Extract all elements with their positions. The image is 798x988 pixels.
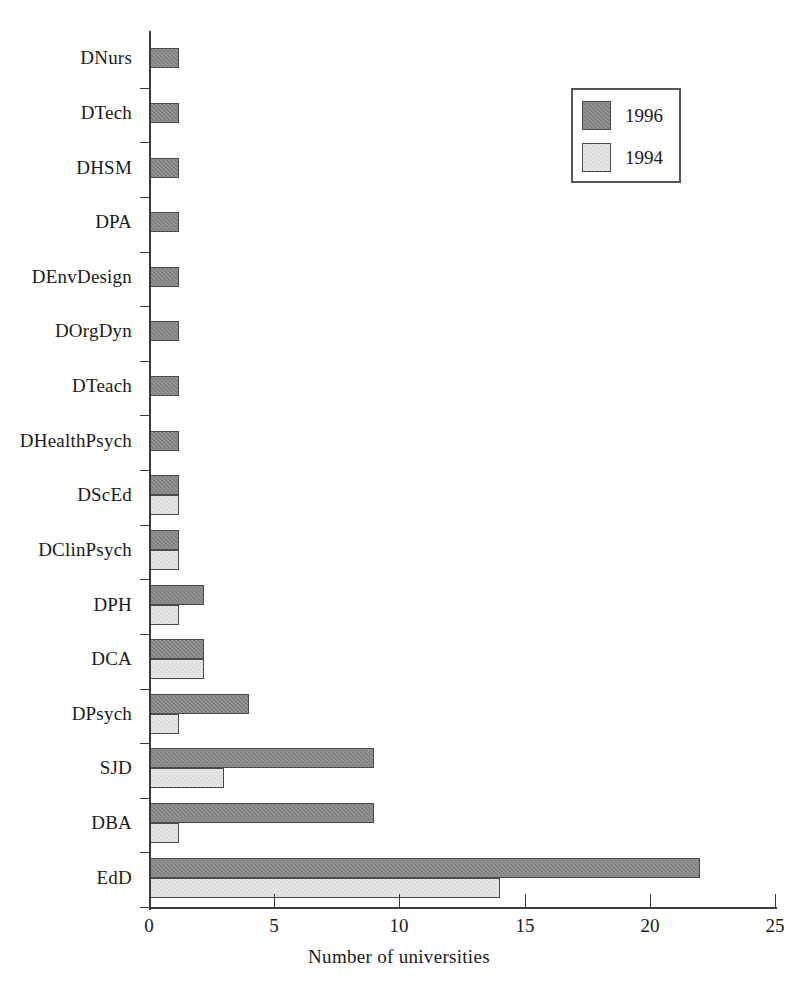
bar-1994-dph: [149, 605, 179, 625]
bar-1996-dph: [149, 585, 204, 605]
bar-1994-dba: [149, 823, 179, 843]
y-axis-tick: [140, 907, 151, 908]
x-axis-tick-label-10: 10: [390, 915, 409, 937]
y-axis-tick: [140, 88, 151, 89]
y-axis-label-dpa: DPA: [0, 212, 142, 231]
y-axis-label-sjd: SJD: [0, 758, 142, 777]
bar-1996-dteach: [149, 376, 179, 396]
y-axis-label-dca: DCA: [0, 649, 142, 668]
bar-1996-dpa: [149, 212, 179, 232]
y-axis-label-dba: DBA: [0, 813, 142, 832]
bar-1994-dsced: [149, 495, 179, 515]
legend-label-1996: 1996: [625, 106, 663, 125]
legend-label-1994: 1994: [625, 148, 663, 167]
y-axis-label-edd: EdD: [0, 868, 142, 887]
y-axis-label-dhsm: DHSM: [0, 158, 142, 177]
y-axis-tick: [140, 361, 151, 362]
y-axis-label-dteach: DTeach: [0, 376, 142, 395]
x-axis-tick-25: [775, 894, 776, 908]
x-axis-title: Number of universities: [0, 946, 798, 968]
y-axis-tick: [140, 852, 151, 853]
x-axis-tick-label-5: 5: [269, 915, 279, 937]
y-axis-label-dsced: DScEd: [0, 485, 142, 504]
y-axis-label-dhealthpsych: DHealthPsych: [0, 431, 142, 450]
y-axis-category-labels: DNursDTechDHSMDPADEnvDesignDOrgDynDTeach…: [0, 0, 142, 988]
chart-legend: 1996 1994: [571, 88, 681, 183]
bar-1996-dclinpsych: [149, 530, 179, 550]
y-axis-tick: [140, 525, 151, 526]
bar-chart: DNursDTechDHSMDPADEnvDesignDOrgDynDTeach…: [0, 0, 798, 988]
bar-1996-dhsm: [149, 158, 179, 178]
bar-1994-dca: [149, 659, 204, 679]
y-axis-tick: [140, 634, 151, 635]
bar-1996-dnurs: [149, 48, 179, 68]
y-axis-label-dtech: DTech: [0, 103, 142, 122]
bar-1996-dsced: [149, 475, 179, 495]
bar-1994-dclinpsych: [149, 550, 179, 570]
bar-1996-dtech: [149, 103, 179, 123]
y-axis-tick: [140, 142, 151, 143]
legend-item-1996: 1996: [582, 100, 663, 130]
bar-1996-edd: [149, 858, 700, 878]
x-axis-tick-0: [149, 894, 150, 908]
legend-swatch-1994: [582, 143, 611, 172]
legend-swatch-1996: [582, 101, 611, 130]
x-axis-tick-label-20: 20: [641, 915, 660, 937]
y-axis-tick: [140, 415, 151, 416]
x-axis-line: [149, 907, 777, 909]
bar-1996-dorgdyn: [149, 321, 179, 341]
x-axis-tick-15: [525, 894, 526, 908]
y-axis-label-dpsych: DPsych: [0, 704, 142, 723]
y-axis-label-dclinpsych: DClinPsych: [0, 540, 142, 559]
y-axis-tick: [140, 743, 151, 744]
plot-area: [149, 33, 775, 908]
bar-1994-dpsych: [149, 714, 179, 734]
y-axis-tick: [140, 470, 151, 471]
bar-1996-denvdesign: [149, 267, 179, 287]
y-axis-tick: [140, 798, 151, 799]
bar-1996-dpsych: [149, 694, 249, 714]
y-axis-label-denvdesign: DEnvDesign: [0, 267, 142, 286]
bar-1996-dba: [149, 803, 374, 823]
y-axis-tick: [140, 252, 151, 253]
x-axis-tick-label-15: 15: [516, 915, 535, 937]
bar-1996-dhealthpsych: [149, 431, 179, 451]
bar-1996-sjd: [149, 748, 374, 768]
y-axis-label-dorgdyn: DOrgDyn: [0, 321, 142, 340]
bar-1994-edd: [149, 878, 500, 898]
x-axis-tick-5: [274, 894, 275, 908]
x-axis-tick-20: [650, 894, 651, 908]
bar-1994-sjd: [149, 768, 224, 788]
x-axis-tick-label-0: 0: [144, 915, 154, 937]
y-axis-label-dnurs: DNurs: [0, 48, 142, 67]
x-axis-tick-10: [399, 894, 400, 908]
x-axis-tick-label-25: 25: [766, 915, 785, 937]
legend-item-1994: 1994: [582, 142, 663, 172]
y-axis-tick: [140, 579, 151, 580]
y-axis-tick: [140, 689, 151, 690]
y-axis-tick: [140, 197, 151, 198]
bar-1996-dca: [149, 639, 204, 659]
y-axis-label-dph: DPH: [0, 595, 142, 614]
y-axis-tick: [140, 306, 151, 307]
